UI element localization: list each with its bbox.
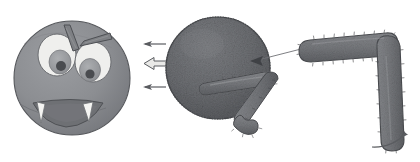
monster-head-group xyxy=(14,21,130,135)
illustration-svg xyxy=(0,0,420,162)
illustration-canvas: Monster craft assembly steps Grayscale c… xyxy=(0,0,420,162)
arrow-upper-left-icon xyxy=(143,41,166,47)
right-eye-pupil xyxy=(85,69,94,78)
big-arm-group xyxy=(297,30,407,154)
monster-right-eye xyxy=(75,42,111,82)
arrow-lower-left-icon xyxy=(143,84,166,90)
left-eye-pupil xyxy=(56,61,66,71)
body-ball-highlight xyxy=(180,29,224,59)
